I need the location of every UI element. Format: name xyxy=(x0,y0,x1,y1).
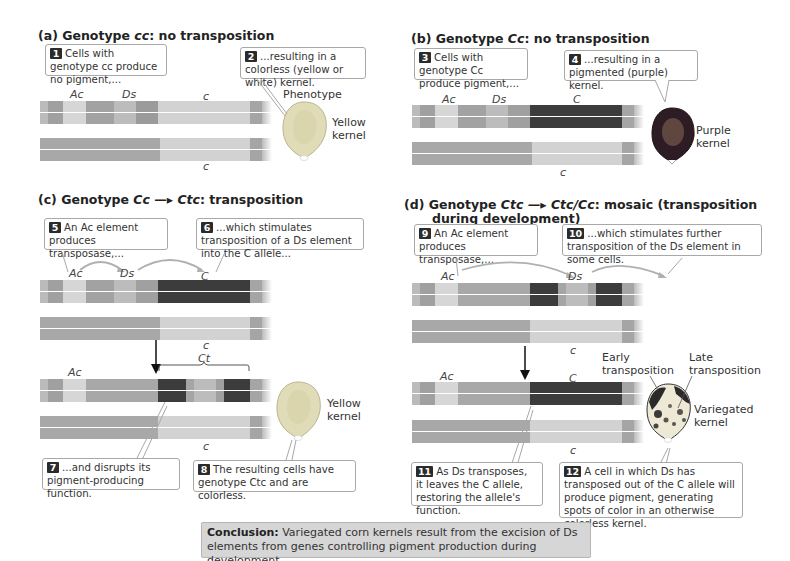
purple-kernel-icon xyxy=(648,106,698,166)
callout-7: 7...and disrupts its pigment-producing f… xyxy=(42,458,180,490)
ct-brace xyxy=(158,362,250,372)
label-ds: Ds xyxy=(568,270,582,283)
callout-4: 4...resulting in a pigmented (purple) ke… xyxy=(564,50,698,81)
chromosome-d-mid xyxy=(412,320,644,344)
callout-4-pointer xyxy=(655,80,675,105)
chromosome-a-bottom xyxy=(40,138,272,162)
callout-8: 8The resulting cells have genotype Ctc a… xyxy=(193,460,356,492)
early-transposition-label: Early transposition xyxy=(602,351,682,377)
label-c: c xyxy=(570,344,576,357)
chromosome-d-top xyxy=(412,283,644,307)
label-ac: Ac xyxy=(441,270,455,283)
callout-11: 11As Ds transposes, it leaves the C alle… xyxy=(411,462,543,506)
kernel-label-b: Purple kernel xyxy=(696,124,736,150)
callout-7-pointer xyxy=(130,402,170,462)
chromosome-a-top xyxy=(40,101,272,125)
kernel-label-c: Yellow kernel xyxy=(327,397,367,423)
label-c: c xyxy=(203,339,209,352)
panel-b-title: (b) Genotype Cc: no transposition xyxy=(411,32,650,46)
label-ac: Ac xyxy=(69,267,83,280)
chromosome-c-transposed xyxy=(40,379,272,403)
early-late-pointers xyxy=(650,376,700,416)
transposition-arrows-c xyxy=(60,250,220,280)
panel-a-title: (a) Genotype cc: no transposition xyxy=(38,29,274,43)
yellow-kernel-icon-c xyxy=(274,380,324,442)
chromosome-c-top xyxy=(40,280,272,304)
chromosome-b-bottom xyxy=(412,142,644,166)
chromosome-c-mid xyxy=(40,317,272,341)
kernel-label-a: Yellow kernel xyxy=(332,116,372,142)
chromosome-d-restored xyxy=(412,382,644,406)
callout-5: 5An Ac element produces transposase,... xyxy=(44,218,168,250)
label-ds: Ds xyxy=(122,88,136,101)
callout-12: 12A cell in which Ds has transposed out … xyxy=(559,462,743,518)
label-ac: Ac xyxy=(70,88,84,101)
callout-3: 3Cells with genotype Cc produce pigment,… xyxy=(414,48,528,80)
down-arrow-d xyxy=(519,346,531,382)
panel-c-title: (c) Genotype Cc —▸ Ctc: transposition xyxy=(38,193,303,207)
chromosome-b-top xyxy=(412,105,644,129)
transposition-arrows-d xyxy=(450,256,680,286)
callout-10: 10...which stimulates further transposit… xyxy=(562,224,762,256)
label-ac: Ac xyxy=(68,366,82,379)
label-c-bottom: c xyxy=(203,160,209,173)
callout-9: 9An Ac element produces transposase,... xyxy=(414,224,538,256)
label-c-bottom: c xyxy=(570,444,576,457)
kernel-label-d: Variegated kernel xyxy=(694,403,754,429)
callout-2: 2...resulting in a colorless (yellow or … xyxy=(240,47,366,79)
late-transposition-label: Late transposition xyxy=(689,351,764,377)
callout-11-pointer xyxy=(505,406,535,468)
label-ds: Ds xyxy=(120,267,134,280)
callout-8-pointer xyxy=(282,440,302,462)
panel-d-title: (d) Genotype Ctc —▸ Ctc/Cc: mosaic (tran… xyxy=(404,198,757,212)
conclusion-box: Conclusion: Variegated corn kernels resu… xyxy=(201,522,591,558)
callout-2-pointer xyxy=(255,78,295,118)
callout-1: 1Cells with genotype cc produce no pigme… xyxy=(45,44,167,76)
label-c-bottom: c xyxy=(203,440,209,453)
callout-6: 6...which stimulates transposition of a … xyxy=(196,218,364,250)
label-c-bottom: c xyxy=(560,166,566,179)
